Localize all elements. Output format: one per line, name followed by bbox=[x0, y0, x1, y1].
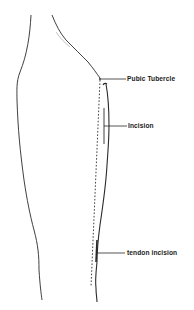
label-incision: Incision bbox=[128, 122, 154, 130]
groin-crease-line bbox=[52, 15, 100, 78]
outer-thigh-contour bbox=[17, 15, 42, 300]
groin-crease-faint-line bbox=[56, 32, 70, 47]
thigh-diagram bbox=[0, 0, 194, 310]
pubic-tubercle-point bbox=[99, 78, 101, 80]
label-pubic-tubercle: Pubic Tubercle bbox=[127, 75, 175, 83]
label-tendon-incision: tendon incision bbox=[127, 249, 177, 257]
tendon-incision-mark bbox=[96, 240, 97, 262]
inner-thigh-contour bbox=[96, 83, 109, 302]
